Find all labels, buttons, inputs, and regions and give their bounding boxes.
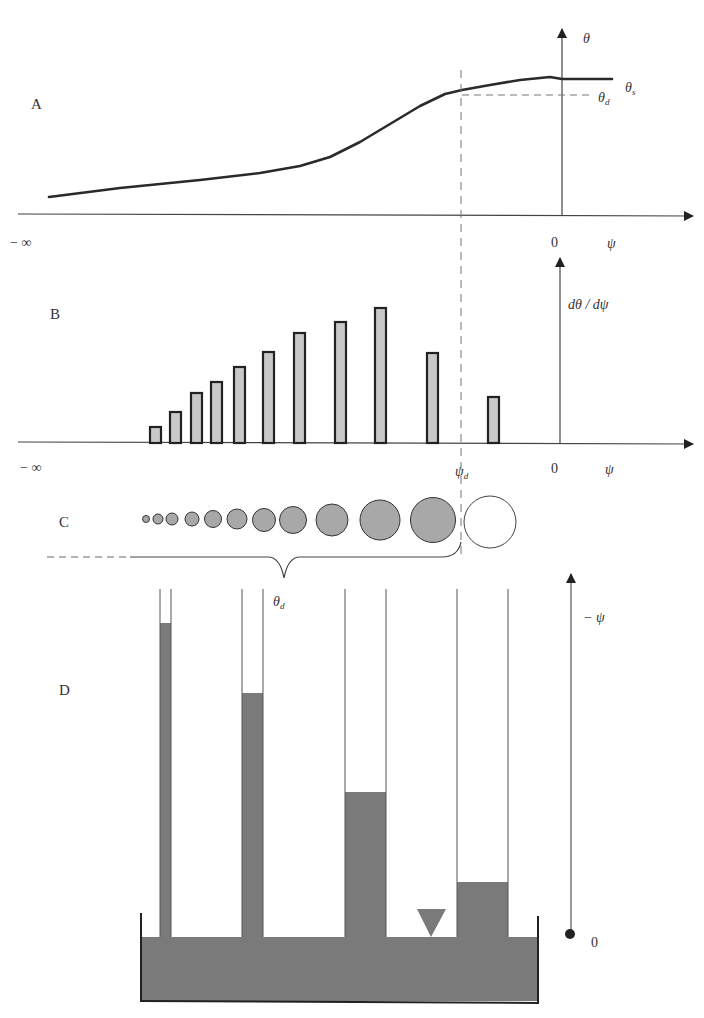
tube-water-column (242, 693, 263, 940)
panel-a (18, 29, 693, 216)
dtheta-dpsi-label: dθ / dψ (568, 298, 608, 312)
capillary-tubes (160, 589, 508, 940)
tube-water-column (160, 623, 171, 940)
panel-c-letter: C (59, 515, 69, 530)
pore-size-bar (170, 412, 181, 443)
brace-theta-d-label: θd (273, 595, 284, 611)
panel-a-neg-infinity-label: − ∞ (10, 236, 31, 250)
panel-b (18, 258, 693, 444)
psi-d-label: ψd (455, 465, 468, 481)
tube-water-column (345, 792, 386, 940)
pore-size-bar (263, 352, 274, 443)
panel-b-origin-label: 0 (551, 462, 558, 476)
pore-size-bar (234, 367, 245, 443)
panel-b-neg-infinity-label: − ∞ (20, 461, 41, 475)
filled-pore-circle (143, 516, 150, 523)
water-table-triangle-icon (417, 909, 446, 937)
pore-size-bar (294, 333, 305, 443)
filled-pore-circle (316, 504, 348, 536)
filled-pore-circle (205, 511, 222, 528)
filled-pore-circle (153, 514, 163, 524)
pore-size-bar (191, 393, 202, 443)
pore-size-bars (150, 308, 499, 443)
reservoir-water (142, 937, 538, 1001)
pore-size-bar (427, 353, 438, 443)
panel-a-x-axis (18, 214, 693, 216)
panel-d (141, 574, 575, 1004)
panel-d-origin-label: 0 (591, 936, 598, 950)
reservoir-bottom (141, 1001, 539, 1003)
filled-pore-circle (227, 509, 247, 529)
filled-pore-circle (166, 513, 178, 525)
panel-a-psi-label: ψ (607, 237, 616, 251)
pore-size-bar (375, 308, 386, 443)
soil-water-diagram: A θ θs θd − ∞ 0 ψ B dθ / dψ − ∞ ψd 0 ψ C… (0, 0, 704, 1018)
theta-d-symbol: θ (598, 90, 605, 105)
filled-pore-circle (411, 498, 456, 543)
theta-s-symbol: θ (625, 80, 632, 95)
theta-d-brace (130, 542, 461, 578)
theta-s-label: θs (625, 81, 635, 97)
theta-d-subscript: d (605, 97, 610, 107)
brace-theta-symbol: θ (273, 594, 280, 609)
panel-b-letter: B (50, 307, 60, 322)
panel-d-letter: D (59, 683, 70, 698)
panel-b-psi-label: ψ (605, 463, 614, 477)
origin-dot (565, 929, 575, 939)
diagram-canvas (0, 0, 704, 1018)
neg-psi-label: − ψ (583, 611, 605, 625)
filled-pore-circle (280, 507, 307, 534)
tube-water-column (457, 882, 508, 940)
filled-pore-circle (185, 512, 199, 526)
theta-d-label: θd (598, 91, 609, 107)
panel-a-origin-label: 0 (551, 236, 558, 250)
psi-d-symbol: ψ (455, 464, 464, 479)
panel-c (47, 496, 516, 578)
pore-size-bar (211, 382, 222, 443)
panel-b-x-axis (18, 442, 693, 444)
filled-pore-circle (253, 509, 276, 532)
filled-pore-circle (360, 500, 400, 540)
brace-theta-subscript: d (280, 601, 285, 611)
empty-pore-circle (464, 496, 516, 548)
theta-s-subscript: s (632, 87, 636, 97)
psi-d-subscript: d (464, 471, 469, 481)
pore-size-bar (335, 322, 346, 443)
pore-size-bar (488, 397, 499, 443)
panel-a-letter: A (31, 97, 42, 112)
pore-circles (143, 496, 517, 548)
theta-axis-label: θ (583, 32, 590, 46)
pore-size-bar (150, 427, 161, 443)
